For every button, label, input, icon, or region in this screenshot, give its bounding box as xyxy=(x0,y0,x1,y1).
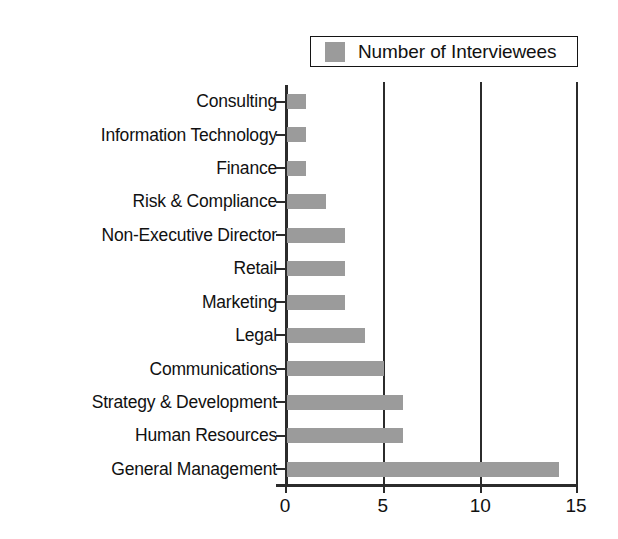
legend-swatch-icon xyxy=(325,42,345,62)
bar xyxy=(287,328,365,343)
bar-row xyxy=(285,118,578,151)
chart-legend: Number of Interviewees xyxy=(310,36,578,67)
bar xyxy=(287,462,559,477)
x-tick-label-5: 5 xyxy=(377,496,388,515)
y-tick xyxy=(276,201,285,203)
y-tick xyxy=(276,134,285,136)
bar-row xyxy=(285,185,578,218)
y-tick xyxy=(276,268,285,270)
category-label-row: Communications xyxy=(0,352,277,385)
bar xyxy=(287,428,403,443)
bar xyxy=(287,228,345,243)
category-label: Risk & Compliance xyxy=(133,192,277,211)
category-label: Marketing xyxy=(202,293,277,312)
category-label: Consulting xyxy=(196,92,277,111)
bar xyxy=(287,127,306,142)
bar xyxy=(287,361,384,376)
category-label-row: Strategy & Development xyxy=(0,386,277,419)
category-label-row: General Management xyxy=(0,453,277,486)
category-label: Finance xyxy=(216,159,277,178)
category-label-row: Consulting xyxy=(0,85,277,118)
category-axis-labels: ConsultingInformation TechnologyFinanceR… xyxy=(0,85,277,486)
category-label: Communications xyxy=(149,360,277,379)
bar xyxy=(287,261,345,276)
category-label-row: Finance xyxy=(0,152,277,185)
x-tick-label-15: 15 xyxy=(565,496,586,515)
bar-row xyxy=(285,286,578,319)
bar xyxy=(287,295,345,310)
category-label: Legal xyxy=(235,326,277,345)
bar-row xyxy=(285,419,578,452)
category-label: Strategy & Development xyxy=(92,393,277,412)
bar-row xyxy=(285,352,578,385)
category-label: Retail xyxy=(233,259,277,278)
y-tick xyxy=(276,234,285,236)
bar-row xyxy=(285,319,578,352)
x-tick-label-0: 0 xyxy=(280,496,291,515)
category-label: Information Technology xyxy=(101,126,277,145)
bar xyxy=(287,94,306,109)
bar-row xyxy=(285,453,578,486)
category-label-row: Retail xyxy=(0,252,277,285)
bar-row xyxy=(285,386,578,419)
category-label: Non-Executive Director xyxy=(101,226,277,245)
y-tick xyxy=(276,401,285,403)
bar-rows xyxy=(285,85,578,486)
category-label-row: Human Resources xyxy=(0,419,277,452)
category-label-row: Information Technology xyxy=(0,118,277,151)
bar xyxy=(287,395,403,410)
y-tick xyxy=(276,167,285,169)
bar-row xyxy=(285,219,578,252)
y-tick xyxy=(276,468,285,470)
y-tick xyxy=(276,334,285,336)
y-tick xyxy=(276,435,285,437)
bar xyxy=(287,194,326,209)
bar-row xyxy=(285,252,578,285)
y-tick xyxy=(276,301,285,303)
x-tick-label-10: 10 xyxy=(470,496,491,515)
category-label-row: Marketing xyxy=(0,286,277,319)
bar xyxy=(287,161,306,176)
legend-label: Number of Interviewees xyxy=(358,42,556,61)
category-label: General Management xyxy=(111,460,277,479)
bar-row xyxy=(285,85,578,118)
bar-row xyxy=(285,152,578,185)
category-label-row: Legal xyxy=(0,319,277,352)
bar-chart: Number of Interviewees ConsultingInforma… xyxy=(0,0,618,539)
category-label-row: Risk & Compliance xyxy=(0,185,277,218)
y-tick xyxy=(276,101,285,103)
category-label-row: Non-Executive Director xyxy=(0,219,277,252)
category-label: Human Resources xyxy=(135,426,277,445)
plot-area: 0 5 10 15 xyxy=(285,85,578,486)
y-tick xyxy=(276,368,285,370)
